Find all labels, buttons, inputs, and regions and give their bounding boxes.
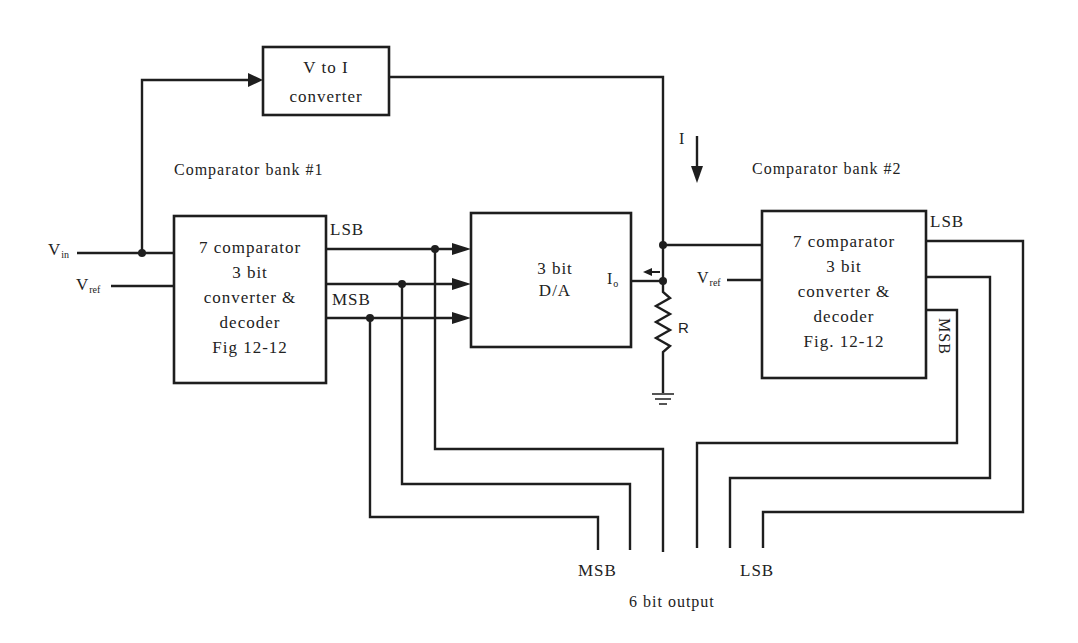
- vref1-sub: ref: [89, 284, 100, 295]
- dac-line2: D/A: [520, 280, 590, 302]
- c1-line3: converter &: [174, 285, 326, 310]
- bank1-msb-label: MSB: [332, 290, 371, 310]
- resistor-label: R: [678, 319, 690, 336]
- resistor-zigzag: [656, 281, 670, 393]
- dac-line1: 3 bit: [520, 258, 590, 280]
- v-to-i-line2: converter: [263, 82, 389, 111]
- arrow-msb-into-dac: [452, 312, 471, 324]
- c1-line1: 7 comparator: [174, 235, 326, 260]
- v-to-i-label: V to I converter: [263, 53, 389, 111]
- out-bit-msb-wire: [370, 318, 598, 550]
- ground-symbol: [652, 394, 674, 404]
- vref2-label: Vref: [697, 269, 721, 288]
- io-arrow-head: [643, 268, 652, 276]
- dac-label: 3 bit D/A: [520, 258, 590, 302]
- vref2-sub: ref: [710, 277, 721, 288]
- c2-line4: decoder: [762, 304, 926, 329]
- output-lsb-label: LSB: [740, 561, 774, 581]
- arrow-mid-into-dac: [452, 278, 471, 290]
- c2-line1: 7 comparator: [762, 229, 926, 254]
- output-msb-label: MSB: [578, 561, 617, 581]
- io-sub: o: [613, 278, 618, 289]
- c1-line2: 3 bit: [174, 260, 326, 285]
- comparator1-label: 7 comparator 3 bit converter & decoder F…: [174, 235, 326, 360]
- vin-main: V: [48, 240, 61, 259]
- c2-line3: converter &: [762, 279, 926, 304]
- vin-junction: [138, 249, 146, 257]
- vref1-label: Vref: [76, 275, 100, 295]
- arrow-into-vtoi: [248, 73, 263, 87]
- c2-line2: 3 bit: [762, 254, 926, 279]
- vref1-main: V: [76, 275, 89, 294]
- comparator2-label: 7 comparator 3 bit converter & decoder F…: [762, 229, 926, 354]
- bank2-title: Comparator bank #2: [752, 160, 902, 178]
- io-label: Io: [607, 270, 618, 289]
- vin-label: Vin: [48, 240, 69, 260]
- vin-sub: in: [61, 249, 69, 260]
- adc-block-diagram: V to I converter Comparator bank #1 Comp…: [0, 0, 1078, 643]
- bank2-lsb-label: LSB: [930, 212, 964, 232]
- c2-line5: Fig. 12-12: [762, 329, 926, 354]
- c1-line4: decoder: [174, 310, 326, 335]
- v-to-i-line1: V to I: [263, 53, 389, 82]
- current-label: I: [679, 130, 685, 148]
- current-arrow-head: [691, 166, 703, 183]
- bank1-lsb-label: LSB: [330, 220, 364, 240]
- arrow-lsb-into-dac: [452, 243, 471, 255]
- bank1-title: Comparator bank #1: [174, 161, 324, 179]
- c1-line5: Fig 12-12: [174, 335, 326, 360]
- bank2-msb-label: MSB: [935, 318, 953, 355]
- output-caption: 6 bit output: [629, 593, 715, 611]
- vref2-main: V: [697, 269, 710, 286]
